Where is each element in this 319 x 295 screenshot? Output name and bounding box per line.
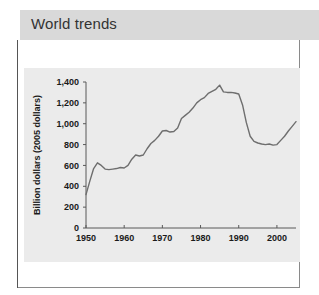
y-tick-label: 1,200 (56, 98, 79, 108)
x-tick-label: 1960 (114, 233, 134, 243)
x-tick-label: 1990 (229, 233, 249, 243)
y-tick-label: 600 (64, 161, 79, 171)
line-chart: 02004006008001,0001,2001,400 19501960197… (24, 68, 300, 262)
screenshot-root: World trends 02004006008001,0001,2001,40… (0, 0, 319, 295)
x-tick-label: 1950 (76, 233, 96, 243)
x-tick-label: 1970 (152, 233, 172, 243)
panel-left-rule (17, 40, 18, 288)
y-tick-label: 200 (64, 202, 79, 212)
y-tick-label: 1,400 (56, 77, 79, 87)
chart-panel: 02004006008001,0001,2001,400 19501960197… (24, 68, 300, 262)
y-tick-label: 1,000 (56, 119, 79, 129)
y-tick-label: 800 (64, 140, 79, 150)
y-tick-label: 400 (64, 181, 79, 191)
x-tick-label: 2000 (267, 233, 287, 243)
y-tick-label: 0 (74, 223, 79, 233)
series-line-world-trends (86, 85, 296, 195)
y-axis-title: Billion dollars (2005 dollars) (32, 95, 42, 215)
page-title: World trends (31, 15, 117, 32)
y-axis-ticks: 02004006008001,0001,2001,400 (56, 77, 86, 233)
x-tick-label: 1980 (191, 233, 211, 243)
